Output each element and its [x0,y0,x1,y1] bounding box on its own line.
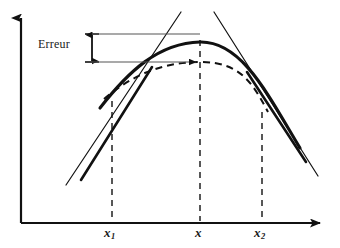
tick-x2-base: x [254,225,261,240]
tick-x1-subscript: 1 [111,231,115,241]
left-tangent-line [66,12,181,185]
axis-tick-label-x: x [195,226,202,239]
axis-tick-label-x1: x1 [104,226,115,239]
error-bracket-group [85,34,200,62]
left-secant-chord [81,67,152,180]
error-tangent-figure: Erreur x1 x x2 [0,0,340,248]
tick-x2-subscript: 2 [261,231,265,241]
tick-x-base: x [195,225,202,240]
tick-x1-base: x [104,225,111,240]
drop-lines-group [112,40,262,221]
axis-tick-label-x2: x2 [254,226,265,239]
right-secant-chord [247,72,306,162]
error-label: Erreur [38,38,70,50]
